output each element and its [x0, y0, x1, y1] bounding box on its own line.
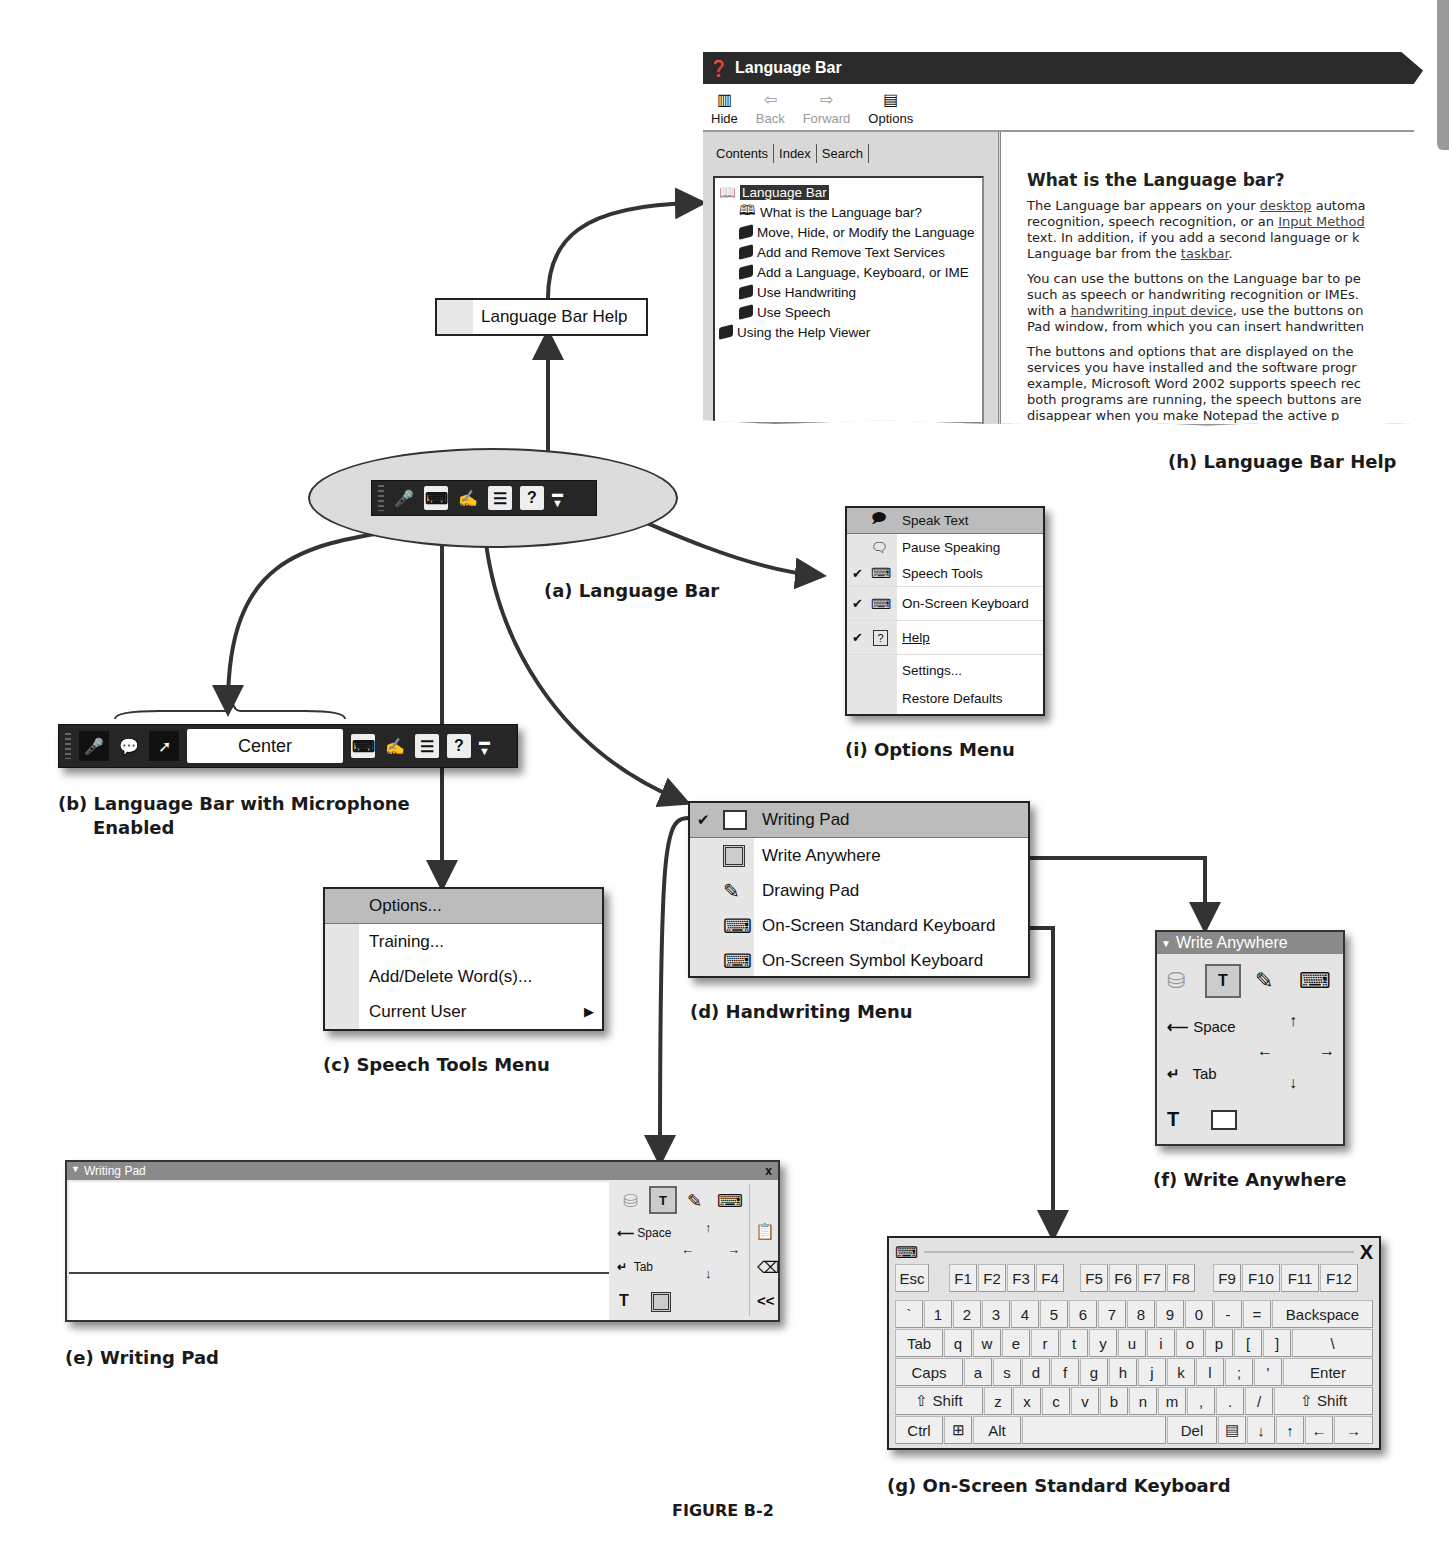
eraser-icon[interactable]: ⌫ — [757, 1258, 780, 1277]
tab-button[interactable]: ↵ Tab — [617, 1260, 653, 1274]
key-f8[interactable]: F8 — [1167, 1264, 1195, 1292]
microphone-icon[interactable]: 🎤 — [79, 731, 109, 761]
keyboard-icon[interactable]: ⌨ — [1299, 968, 1331, 994]
key-f5[interactable]: F5 — [1080, 1264, 1108, 1292]
minimize-icon[interactable]: ▬▼ — [479, 736, 490, 756]
key-f1[interactable]: F1 — [949, 1264, 977, 1292]
space-button[interactable]: ⟵ Space — [617, 1226, 671, 1240]
language-bar-help-menu-item[interactable]: Language Bar Help — [435, 298, 648, 336]
grip-handle[interactable] — [65, 733, 71, 759]
key-b[interactable]: b — [1100, 1387, 1128, 1415]
arrow-right-icon[interactable]: → — [727, 1242, 740, 1257]
menu-item-add-delete-words[interactable]: Add/Delete Word(s)... — [325, 959, 602, 994]
text-mode-icon[interactable]: T — [1205, 964, 1241, 998]
key-semicolon[interactable]: ; — [1225, 1358, 1253, 1386]
writing-pad-icon[interactable]: ☰ — [488, 486, 512, 510]
collapse-button[interactable]: << — [757, 1292, 775, 1309]
key-arrow-left[interactable]: ← — [1305, 1416, 1333, 1444]
dictation-icon[interactable]: 💬 — [117, 734, 141, 758]
key-s[interactable]: s — [993, 1358, 1021, 1386]
windows-key-icon[interactable]: ⊞ — [944, 1416, 972, 1444]
key-r[interactable]: r — [1031, 1329, 1059, 1357]
arrow-left-icon[interactable]: ← — [681, 1242, 694, 1257]
menu-item-training[interactable]: Training... — [325, 924, 602, 959]
key-0[interactable]: 0 — [1185, 1300, 1213, 1328]
key-caps[interactable]: Caps — [895, 1358, 963, 1386]
key-f7[interactable]: F7 — [1138, 1264, 1166, 1292]
help-icon[interactable]: ? — [447, 734, 471, 758]
tree-item-language-bar[interactable]: 📖Language Bar — [719, 182, 978, 202]
key-d[interactable]: d — [1022, 1358, 1050, 1386]
key-9[interactable]: 9 — [1156, 1300, 1184, 1328]
space-button[interactable]: ⟵ Space — [1167, 1018, 1236, 1036]
options-button[interactable]: ▤Options — [868, 91, 913, 126]
key-minus[interactable]: - — [1214, 1300, 1242, 1328]
arrow-up-icon[interactable]: ↑ — [705, 1220, 712, 1235]
key-backslash[interactable]: \ — [1292, 1329, 1373, 1357]
drawing-pad-icon[interactable]: ✎ — [687, 1190, 702, 1212]
link-input-method[interactable]: Input Method — [1278, 214, 1365, 229]
tree-item-add-language[interactable]: Add a Language, Keyboard, or IME — [719, 262, 978, 282]
key-f12[interactable]: F12 — [1320, 1264, 1358, 1292]
tree-item-move-hide[interactable]: Move, Hide, or Modify the Language — [719, 222, 978, 242]
key-quote[interactable]: ' — [1254, 1358, 1282, 1386]
menu-item-current-user[interactable]: Current User▶ — [325, 994, 602, 1029]
key-backspace[interactable]: Backspace — [1272, 1300, 1373, 1328]
key-alt[interactable]: Alt — [973, 1416, 1021, 1444]
speech-tools-icon[interactable]: ⌨ — [424, 486, 448, 510]
key-arrow-down[interactable]: ↓ — [1247, 1416, 1275, 1444]
key-a[interactable]: a — [964, 1358, 992, 1386]
correction-icon[interactable]: 📋 — [755, 1222, 775, 1241]
key-arrow-up[interactable]: ↑ — [1276, 1416, 1304, 1444]
menu-item-standard-keyboard[interactable]: ⌨On-Screen Standard Keyboard — [690, 908, 1028, 943]
key-y[interactable]: y — [1089, 1329, 1117, 1357]
key-del[interactable]: Del — [1167, 1416, 1217, 1444]
writing-pad-icon[interactable] — [1211, 1110, 1237, 1130]
key-n[interactable]: n — [1129, 1387, 1157, 1415]
key-left-bracket[interactable]: [ — [1234, 1329, 1262, 1357]
help-title-bar[interactable]: ❓ Language Bar — [703, 52, 1423, 84]
key-f4[interactable]: F4 — [1036, 1264, 1064, 1292]
menu-item-on-screen-keyboard[interactable]: ✔⌨On-Screen Keyboard — [847, 587, 1043, 620]
key-p[interactable]: p — [1205, 1329, 1233, 1357]
menu-item-speech-tools[interactable]: ✔⌨Speech Tools — [847, 560, 1043, 586]
arrow-right-icon[interactable]: → — [1319, 1042, 1335, 1060]
link-handwriting-device[interactable]: handwriting input device — [1071, 303, 1233, 318]
write-anywhere-icon[interactable] — [651, 1292, 671, 1312]
key-enter[interactable]: Enter — [1283, 1358, 1373, 1386]
key-esc[interactable]: Esc — [895, 1264, 929, 1292]
link-taskbar[interactable]: taskbar — [1181, 246, 1229, 261]
key-5[interactable]: 5 — [1040, 1300, 1068, 1328]
speech-tools-icon[interactable]: ⌨ — [351, 734, 375, 758]
menu-item-drawing-pad[interactable]: ✎Drawing Pad — [690, 873, 1028, 908]
key-f2[interactable]: F2 — [978, 1264, 1006, 1292]
language-bar-mic-enabled[interactable]: 🎤 💬 ➚ Center ⌨ ✍ ☰ ? ▬▼ — [58, 724, 518, 768]
key-q[interactable]: q — [944, 1329, 972, 1357]
key-x[interactable]: x — [1013, 1387, 1041, 1415]
arrow-down-icon[interactable]: ↓ — [705, 1266, 712, 1281]
handwriting-icon[interactable]: ✍ — [383, 734, 407, 758]
menu-item-writing-pad[interactable]: ✔Writing Pad — [690, 803, 1028, 838]
arrow-left-icon[interactable]: ← — [1257, 1042, 1273, 1060]
key-h[interactable]: h — [1109, 1358, 1137, 1386]
hide-button[interactable]: ▥Hide — [711, 91, 738, 126]
key-3[interactable]: 3 — [982, 1300, 1010, 1328]
menu-item-restore-defaults[interactable]: Restore Defaults — [847, 685, 1043, 711]
key-left-shift[interactable]: ⇧ Shift — [895, 1387, 983, 1415]
key-o[interactable]: o — [1176, 1329, 1204, 1357]
tree-item-speech[interactable]: Use Speech — [719, 302, 978, 322]
tree-item-help-viewer[interactable]: Using the Help Viewer — [719, 322, 978, 342]
key-1[interactable]: 1 — [924, 1300, 952, 1328]
writing-pad-icon[interactable]: ☰ — [415, 734, 439, 758]
key-v[interactable]: v — [1071, 1387, 1099, 1415]
menu-item-settings[interactable]: Settings... — [847, 655, 1043, 685]
text-insert-icon[interactable]: T — [1167, 1108, 1179, 1131]
key-e[interactable]: e — [1002, 1329, 1030, 1357]
key-period[interactable]: . — [1216, 1387, 1244, 1415]
key-right-shift[interactable]: ⇧ Shift — [1274, 1387, 1373, 1415]
key-right-bracket[interactable]: ] — [1263, 1329, 1291, 1357]
key-ctrl[interactable]: Ctrl — [895, 1416, 943, 1444]
writing-pad-title-bar[interactable]: ▼Writing Pad x — [67, 1162, 778, 1180]
key-arrow-right[interactable]: → — [1334, 1416, 1373, 1444]
key-k[interactable]: k — [1167, 1358, 1195, 1386]
